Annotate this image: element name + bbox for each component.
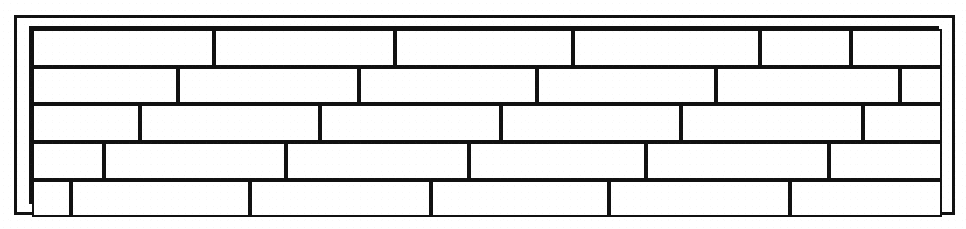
- brick: [829, 142, 942, 180]
- brick: [646, 142, 829, 180]
- wall-area: [29, 26, 939, 204]
- brick: [716, 67, 900, 104]
- brick: [32, 180, 71, 217]
- brick: [320, 104, 501, 142]
- brick: [609, 180, 790, 217]
- brick: [32, 142, 104, 180]
- brick: [140, 104, 320, 142]
- brick: [395, 29, 573, 67]
- outer-frame-border: [14, 15, 955, 215]
- brick: [790, 180, 942, 217]
- brick: [32, 67, 178, 104]
- brick: [32, 29, 214, 67]
- brick: [760, 29, 851, 67]
- brick: [71, 180, 250, 217]
- brick: [431, 180, 609, 217]
- brick: [250, 180, 431, 217]
- brick: [501, 104, 681, 142]
- brick: [178, 67, 359, 104]
- brick: [851, 29, 942, 67]
- course-5: [32, 180, 942, 217]
- brick: [104, 142, 286, 180]
- brick: [32, 104, 140, 142]
- brick: [573, 29, 760, 67]
- brick: [900, 67, 942, 104]
- brick: [359, 67, 537, 104]
- course-4: [32, 142, 942, 180]
- brick-wall-diagram: [0, 0, 966, 229]
- brick: [286, 142, 469, 180]
- course-1: [32, 29, 942, 67]
- brick: [469, 142, 646, 180]
- brick: [681, 104, 863, 142]
- course-2: [32, 67, 942, 104]
- brick: [537, 67, 716, 104]
- course-3: [32, 104, 942, 142]
- brick: [214, 29, 395, 67]
- brick: [863, 104, 942, 142]
